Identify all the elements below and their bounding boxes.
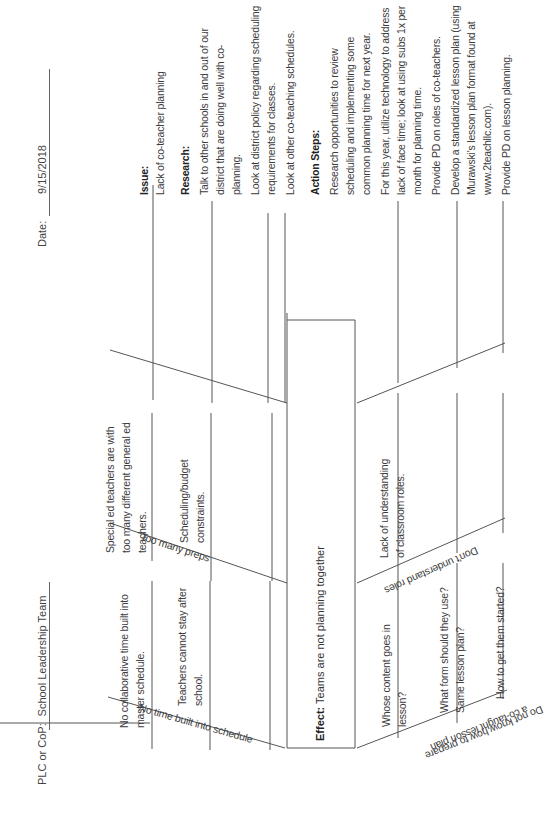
- action-step: Provide PD on roles of co-teachers.: [428, 5, 444, 195]
- cause-lesson-3: How to get them started?: [492, 586, 508, 699]
- cause-no-time-2: Teachers cannot stay after school.: [174, 588, 206, 706]
- research-item: Look at other co-teaching schedules.: [282, 5, 298, 195]
- cause-roles-1: Lack of understanding of classroom roles…: [376, 459, 408, 558]
- cause-lesson-1: Whose content goes in lesson?: [378, 624, 410, 727]
- effect-label: Effect:: [314, 707, 326, 741]
- research-item: Talk to other schools in and out of our …: [196, 5, 244, 195]
- research-item: Look at district policy regarding schedu…: [247, 5, 279, 195]
- issue-text: Lack of co-teacher planning: [152, 5, 168, 195]
- action-step: For this year, utilize technology to add…: [377, 5, 425, 195]
- action-step: Research opportunities to review schedul…: [326, 5, 374, 195]
- effect-statement: Effect: Teams are not planning together: [314, 546, 326, 741]
- research-heading: Research:: [177, 5, 193, 195]
- cause-lesson-2: What form should they use? Same lesson p…: [436, 587, 468, 713]
- cause-preps-2: Scheduling/budget constraints.: [176, 459, 208, 543]
- bone-lower-right: [357, 343, 505, 403]
- cause-preps-1: Special ed teachers are with too many di…: [102, 422, 150, 553]
- issue-heading: Issue:: [136, 5, 152, 195]
- action-step: Develop a standardized lesson plan (usin…: [447, 5, 495, 195]
- cause-no-time-1: No collaborative time built into master …: [116, 594, 148, 728]
- effect-text: Teams are not planning together: [314, 546, 326, 704]
- action-step: Provide PD on lesson planning.: [498, 5, 514, 195]
- action-steps-heading: Action Steps:: [307, 5, 323, 195]
- side-panel: Issue: Lack of co-teacher planning Resea…: [136, 5, 514, 195]
- fishbone-worksheet: PLC or CoP: School Leadership Team Date:…: [0, 0, 558, 813]
- bone-upper-right: [110, 350, 287, 403]
